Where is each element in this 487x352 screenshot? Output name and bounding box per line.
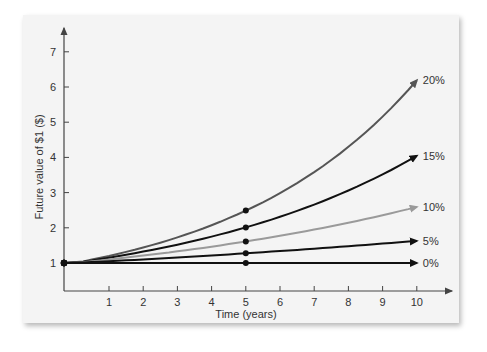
x-tick-label: 4 (209, 296, 215, 308)
y-axis-title: Future value of $1 ($) (33, 114, 45, 219)
x-axis-title: Time (years) (215, 308, 276, 320)
series-label: 0% (423, 257, 439, 269)
x-tick-label: 6 (277, 296, 283, 308)
series-line-20pct (64, 80, 417, 263)
x-tick-label: 1 (106, 296, 112, 308)
axes: 123456712345678910 (50, 28, 452, 308)
x-tick-label: 10 (411, 296, 423, 308)
data-point (243, 260, 249, 266)
y-tick-label: 2 (50, 222, 56, 234)
y-tick-label: 3 (50, 187, 56, 199)
x-tick-label: 8 (345, 296, 351, 308)
y-tick-label: 1 (50, 257, 56, 269)
series-label: 5% (423, 235, 439, 247)
x-tick-label: 9 (380, 296, 386, 308)
y-tick-label: 7 (50, 46, 56, 58)
x-tick-label: 5 (243, 296, 249, 308)
series-label: 10% (423, 201, 445, 213)
x-tick-label: 3 (174, 296, 180, 308)
series-line-15pct (64, 156, 417, 263)
series-lines (61, 80, 417, 266)
x-tick-label: 2 (140, 296, 146, 308)
series-label: 15% (423, 150, 445, 162)
series-labels: 20%15%10%5%0% (423, 74, 445, 269)
y-tick-label: 4 (50, 151, 56, 163)
series-line-5pct (64, 241, 417, 263)
series-label: 20% (423, 74, 445, 86)
data-point (243, 208, 249, 214)
y-tick-label: 6 (50, 81, 56, 93)
data-point (243, 224, 249, 230)
future-value-chart: 123456712345678910 20%15%10%5%0% Time (y… (0, 0, 487, 352)
x-tick-label: 7 (311, 296, 317, 308)
data-point (243, 239, 249, 245)
data-point (243, 250, 249, 256)
y-tick-label: 5 (50, 116, 56, 128)
